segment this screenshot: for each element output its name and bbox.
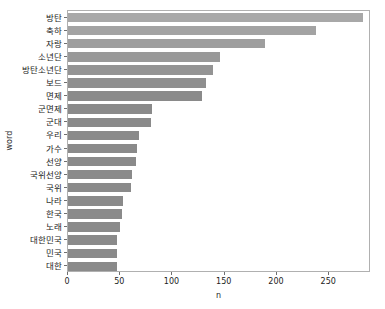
bar (68, 26, 316, 35)
y-tick-label: 가수 (46, 142, 62, 154)
x-tick-label: 100 (164, 277, 179, 286)
bar-row (68, 129, 369, 142)
bar (68, 183, 131, 192)
bar-row (68, 207, 369, 220)
y-tick-label: 국위 (46, 181, 62, 193)
bar-row (68, 221, 369, 234)
bar (68, 104, 152, 113)
x-tick-label: 50 (114, 277, 124, 286)
bar-row (68, 142, 369, 155)
y-axis-tick-labels: 방탄축하자랑소년단방탄소년단보드면제군면제군대우리가수선양국위선양국위나라한국노… (0, 10, 67, 272)
bar (68, 249, 117, 258)
bar (68, 196, 123, 205)
x-tick-mark (328, 272, 329, 275)
bar-row (68, 11, 369, 24)
bar (68, 209, 122, 218)
bar-row (68, 168, 369, 181)
bar-row (68, 76, 369, 89)
bar-chart-figure: word n 방탄축하자랑소년단방탄소년단보드면제군면제군대우리가수선양국위선양… (0, 0, 385, 309)
bar-row (68, 50, 369, 63)
x-tick-label: 150 (216, 277, 231, 286)
y-tick-label: 국위선양 (30, 168, 62, 180)
y-tick-label: 대한 (46, 259, 62, 271)
bar (68, 78, 206, 87)
y-tick-label: 군면제 (38, 102, 62, 114)
x-axis-tick-labels: 050100150200250 (67, 272, 370, 292)
y-tick-label: 군대 (46, 115, 62, 127)
y-tick-label: 우리 (46, 128, 62, 140)
bar (68, 131, 139, 140)
x-tick-mark (119, 272, 120, 275)
bar-row (68, 234, 369, 247)
bar (68, 91, 202, 100)
bar (68, 262, 117, 271)
bar (68, 157, 136, 166)
x-tick-label: 0 (64, 277, 69, 286)
bar (68, 52, 220, 61)
bar-row (68, 116, 369, 129)
x-tick-label: 250 (321, 277, 336, 286)
bar (68, 39, 265, 48)
y-tick-label: 민국 (46, 246, 62, 258)
y-tick-label: 보드 (46, 76, 62, 88)
bar-row (68, 90, 369, 103)
bar (68, 118, 151, 127)
bar (68, 144, 137, 153)
y-tick-label: 면제 (46, 89, 62, 101)
bar-row (68, 103, 369, 116)
y-tick-label: 나라 (46, 194, 62, 206)
bar-row (68, 37, 369, 50)
x-axis-title: n (67, 291, 370, 300)
y-tick-label: 대한민국 (30, 233, 62, 245)
bar (68, 222, 120, 231)
y-tick-label: 방탄 (46, 11, 62, 23)
bar-row (68, 247, 369, 260)
y-tick-label: 축하 (46, 24, 62, 36)
bar-row (68, 24, 369, 37)
bar-series (68, 11, 369, 271)
bar-row (68, 194, 369, 207)
bar-row (68, 63, 369, 76)
x-tick-mark (67, 272, 68, 275)
bar-row (68, 181, 369, 194)
bar (68, 13, 363, 22)
x-tick-mark (171, 272, 172, 275)
bar (68, 170, 132, 179)
x-tick-mark (224, 272, 225, 275)
y-tick-label: 소년단 (38, 50, 62, 62)
plot-area (67, 10, 370, 272)
bar-row (68, 260, 369, 273)
y-tick-label: 한국 (46, 207, 62, 219)
x-tick-mark (276, 272, 277, 275)
bar (68, 65, 213, 74)
x-tick-label: 200 (268, 277, 283, 286)
y-tick-label: 자랑 (46, 37, 62, 49)
bar (68, 235, 117, 244)
bar-row (68, 155, 369, 168)
y-tick-label: 선양 (46, 155, 62, 167)
y-tick-label: 노래 (46, 220, 62, 232)
y-tick-label: 방탄소년단 (22, 63, 62, 75)
